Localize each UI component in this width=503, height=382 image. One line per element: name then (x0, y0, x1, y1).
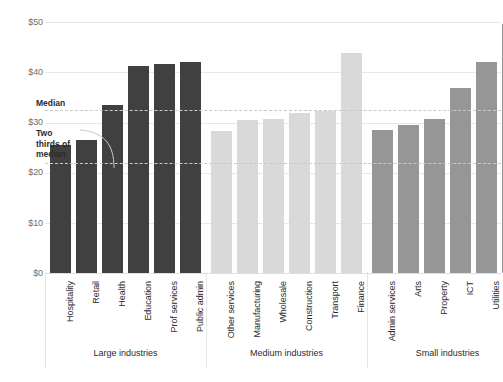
bar-chart: $50 $40 $30 $20 $10 $0 (0, 0, 503, 382)
median-line (45, 110, 501, 111)
y-tick-label-40: $40 (3, 67, 43, 77)
group-label-large-industries: Large industries (45, 348, 206, 358)
y-tick-label-50: $50 (3, 17, 43, 27)
median-annotation-label: Median (36, 98, 65, 109)
group-label-small-industries: Small industries (367, 348, 503, 358)
two-thirds-of-median-annotation-label: Two thirds of median (36, 128, 80, 160)
y-tick-label-10: $10 (3, 218, 43, 228)
y-tick-label-30: $30 (3, 117, 43, 127)
y-tick-label-0: $0 (3, 268, 43, 278)
group-label-medium-industries: Medium industries (206, 348, 367, 358)
reference-lines (45, 14, 501, 280)
plot-area (45, 14, 501, 280)
y-tick-label-20: $20 (3, 167, 43, 177)
two-thirds-of-median-line (45, 163, 501, 164)
x-axis-group-bands: Large industries Medium industries Small… (45, 272, 501, 380)
